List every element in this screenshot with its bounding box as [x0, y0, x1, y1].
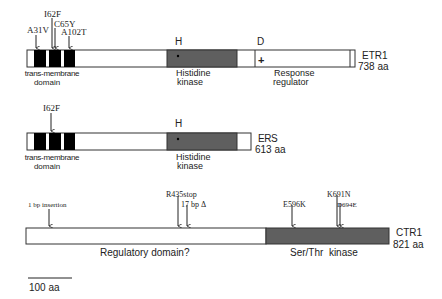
ser-thr-kinase-domain [266, 228, 389, 244]
mutation-label: I62F [44, 9, 61, 19]
histidine-kinase-domain [167, 133, 237, 150]
kinase-label: Ser/Thr kinase [290, 247, 358, 258]
histidine-site-dot [177, 55, 179, 57]
mutation-label: 1 bp insertion [28, 201, 67, 209]
scale-bar-label: 100 aa [29, 282, 60, 293]
mutation-label: E596K [283, 200, 306, 209]
kinase-label: kinase [177, 161, 203, 171]
ers-protein: I62F H trans-membrane domain Histidine k… [25, 103, 286, 171]
ctr1-protein: 1 bp insertion R435stop 17 bp Δ E596K K6… [26, 190, 424, 258]
etr1-protein: A31V I62F C65Y A102T + H D trans-membran… [25, 9, 389, 87]
mutation-label: A102T [61, 27, 87, 37]
receiver-marker-d: D [257, 36, 264, 47]
regulatory-domain [26, 228, 266, 244]
mutation-label: R435stop [166, 190, 197, 199]
tm-segment [34, 133, 46, 150]
kinase-marker-h: H [175, 36, 182, 47]
protein-length: 821 aa [393, 239, 424, 250]
kinase-label: kinase [177, 77, 203, 87]
protein-name: ETR1 [362, 50, 388, 61]
scale-bar: 100 aa [28, 278, 72, 293]
tm-label: domain [34, 162, 60, 171]
mutation-label: K691N [327, 190, 351, 199]
mutation-label: D694E [337, 201, 357, 209]
tm-segment [49, 133, 61, 150]
mutation-label: A31V [27, 25, 49, 35]
tm-label: trans-membrane [25, 69, 80, 78]
mutation-label: 17 bp Δ [181, 200, 206, 209]
protein-length: 738 aa [358, 61, 389, 72]
histidine-site-dot [177, 138, 179, 140]
tm-label: trans-membrane [25, 153, 80, 162]
mutation-label: I62F [43, 103, 60, 113]
receiver-label: regulator [273, 77, 309, 87]
tm-segment [49, 50, 61, 67]
protein-name: CTR1 [396, 227, 423, 238]
kinase-marker-h: H [175, 118, 182, 129]
tm-label: domain [34, 78, 60, 87]
histidine-kinase-domain [167, 50, 237, 67]
protein-name: ERS [258, 133, 278, 144]
regulatory-label: Regulatory domain? [100, 247, 190, 258]
tm-segment [64, 50, 75, 67]
tm-segment [34, 50, 46, 67]
protein-length: 613 aa [255, 144, 286, 155]
protein-domain-diagram: A31V I62F C65Y A102T + H D trans-membran… [0, 0, 442, 299]
receiver-symbol: + [258, 54, 264, 66]
tm-segment [64, 133, 75, 150]
